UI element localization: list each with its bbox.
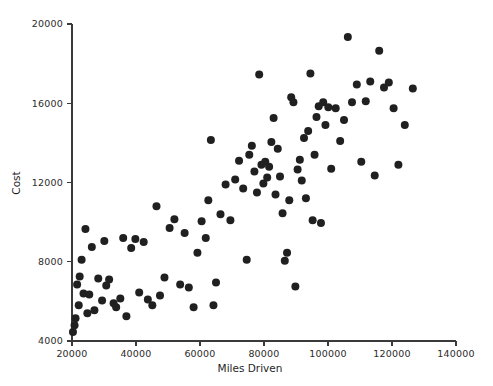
data-point [327,165,335,173]
scatter-chart-figure: 40008000120001600020000 2000040000600008… [0,0,493,386]
x-tick-label: 40000 [120,348,151,359]
data-points-layer [69,33,417,336]
data-point [75,301,83,309]
scatter-plot-svg: 40008000120001600020000 2000040000600008… [0,0,493,386]
data-point [309,216,317,224]
data-point [302,194,310,202]
data-point [274,145,282,153]
data-point [353,80,361,88]
data-point [140,238,148,246]
data-point [394,161,402,169]
data-point [122,312,130,320]
data-point [291,283,299,291]
data-point [289,98,297,106]
data-point [304,127,312,135]
data-point [112,303,120,311]
data-point [285,196,293,204]
data-point [348,98,356,106]
data-point [401,121,409,129]
data-point [409,84,417,92]
data-point [321,121,329,129]
data-point [100,237,108,245]
data-point [270,114,278,122]
data-point [119,234,127,242]
data-point [235,157,243,165]
data-point [336,137,344,145]
data-point [198,217,206,225]
data-point [357,158,365,166]
data-point [94,275,102,283]
y-tick-label: 16000 [32,98,63,109]
data-point [390,104,398,112]
data-point [69,328,77,336]
data-point [385,78,393,86]
data-point [176,281,184,289]
data-point [279,209,287,217]
data-point [185,284,193,292]
y-axis-ticks: 40008000120001600020000 [32,18,72,346]
data-point [131,235,139,243]
data-point [296,156,304,164]
data-point [90,306,98,314]
data-point [265,163,273,171]
data-point [190,303,198,311]
data-point [243,256,251,264]
y-tick-label: 20000 [32,18,63,29]
data-point [209,301,217,309]
data-point [248,142,256,150]
data-point [317,219,325,227]
data-point [324,103,332,111]
y-tick-label: 12000 [32,177,63,188]
data-point [371,172,379,180]
data-point [332,104,340,112]
y-axis-title: Cost [10,171,22,194]
data-point [212,279,220,287]
data-point [298,177,306,185]
data-point [202,234,210,242]
data-point [344,33,352,41]
data-point [311,151,319,159]
data-point [73,281,81,289]
x-axis-ticks: 20000400006000080000100000120000140000 [56,341,474,359]
data-point [272,190,280,198]
x-tick-label: 20000 [56,348,87,359]
data-point [216,210,224,218]
data-point [226,216,234,224]
data-point [204,196,212,204]
data-point [375,47,383,55]
data-point [253,188,261,196]
data-point [306,70,314,78]
x-tick-label: 100000 [309,348,346,359]
data-point [166,224,174,232]
data-point [267,138,275,146]
data-point [263,174,271,182]
x-axis-title: Miles Driven [218,362,283,374]
data-point [300,134,308,142]
data-point [312,113,320,121]
data-point [340,116,348,124]
data-point [85,290,93,298]
x-tick-label: 120000 [373,348,410,359]
data-point [255,71,263,79]
x-tick-label: 140000 [437,348,474,359]
data-point [283,249,291,257]
data-point [72,314,80,322]
data-point [71,321,79,329]
data-point [245,151,253,159]
x-tick-label: 80000 [248,348,279,359]
data-point [281,257,289,265]
data-point [294,166,302,174]
data-point [88,243,96,251]
data-point [207,136,215,144]
data-point [78,256,86,264]
x-tick-label: 60000 [184,348,215,359]
data-point [83,309,91,317]
data-point [276,173,284,181]
data-point [98,296,106,304]
data-point [135,288,143,296]
data-point [81,225,89,233]
data-point [362,97,370,105]
data-point [193,249,201,257]
data-point [231,176,239,184]
y-tick-label: 8000 [38,256,63,267]
